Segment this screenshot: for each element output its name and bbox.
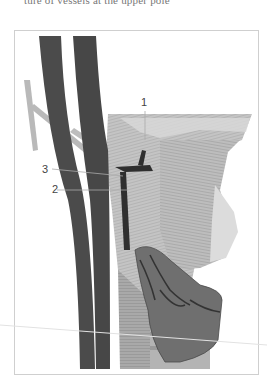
label-1: 1 bbox=[141, 97, 147, 108]
label-3: 3 bbox=[42, 164, 48, 175]
label-2: 2 bbox=[52, 184, 58, 195]
major-vessels bbox=[39, 36, 110, 369]
